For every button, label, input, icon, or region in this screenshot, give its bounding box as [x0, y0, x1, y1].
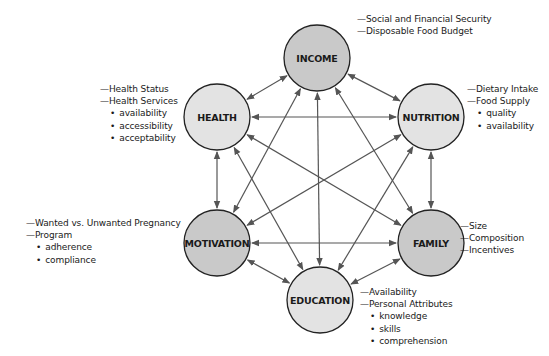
annotation-nutrition: Dietary IntakeFood Supplyqualityavailabi… — [467, 83, 538, 132]
node-label-health: HEALTH — [197, 112, 237, 123]
annotation-family-item: Incentives — [460, 244, 524, 256]
arrow-motivation-education — [248, 260, 290, 283]
annotation-motivation: Wanted vs. Unwanted PregnancyProgramadhe… — [26, 217, 181, 266]
annotation-motivation-item: compliance — [26, 254, 181, 266]
interaction-diagram: INCOMEHEALTHNUTRITIONMOTIVATIONFAMILYEDU… — [0, 0, 549, 356]
annotation-health-item: Health Status — [100, 83, 178, 95]
arrow-income-nutrition — [348, 74, 400, 101]
annotation-health-item: accessibility — [100, 120, 178, 132]
arrow-income-health — [247, 76, 287, 99]
node-label-nutrition: NUTRITION — [402, 112, 459, 123]
node-label-motivation: MOTIVATION — [185, 238, 250, 249]
annotation-motivation-item: Wanted vs. Unwanted Pregnancy — [26, 217, 181, 229]
annotation-education-item: Personal Attributes — [360, 298, 453, 310]
annotation-health: Health StatusHealth Servicesavailability… — [100, 83, 178, 144]
annotation-nutrition-item: Dietary Intake — [467, 83, 538, 95]
annotation-family-item: Size — [460, 220, 524, 232]
annotation-education-item: skills — [360, 323, 453, 335]
annotation-motivation-item: Program — [26, 229, 181, 241]
annotation-nutrition-item: quality — [467, 107, 538, 119]
annotation-family: SizeCompositionIncentives — [460, 220, 524, 257]
annotation-health-item: acceptability — [100, 132, 178, 144]
annotation-income-item: Social and Financial Security — [357, 13, 492, 25]
node-motivation: MOTIVATION — [184, 210, 250, 276]
annotation-income: Social and Financial SecurityDisposable … — [357, 13, 492, 37]
node-label-education: EDUCATION — [290, 295, 350, 306]
node-family: FAMILY — [398, 210, 464, 276]
node-label-income: INCOME — [296, 53, 337, 64]
annotation-education: AvailabilityPersonal Attributesknowledge… — [360, 286, 453, 347]
annotation-health-item: availability — [100, 107, 178, 119]
node-education: EDUCATION — [287, 267, 353, 333]
node-health: HEALTH — [184, 84, 250, 150]
annotation-education-item: Availability — [360, 286, 453, 298]
node-label-family: FAMILY — [413, 238, 449, 249]
annotation-motivation-item: adherence — [26, 241, 181, 253]
annotation-nutrition-item: Food Supply — [467, 95, 538, 107]
annotation-education-item: knowledge — [360, 310, 453, 322]
annotation-health-item: Health Services — [100, 95, 178, 107]
node-nutrition: NUTRITION — [398, 84, 464, 150]
annotation-family-item: Composition — [460, 232, 524, 244]
annotation-education-item: comprehension — [360, 335, 453, 347]
annotation-nutrition-item: availability — [467, 120, 538, 132]
arrow-income-education — [317, 93, 319, 265]
node-income: INCOME — [284, 25, 350, 91]
arrow-family-education — [351, 259, 400, 284]
annotation-income-item: Disposable Food Budget — [357, 25, 492, 37]
